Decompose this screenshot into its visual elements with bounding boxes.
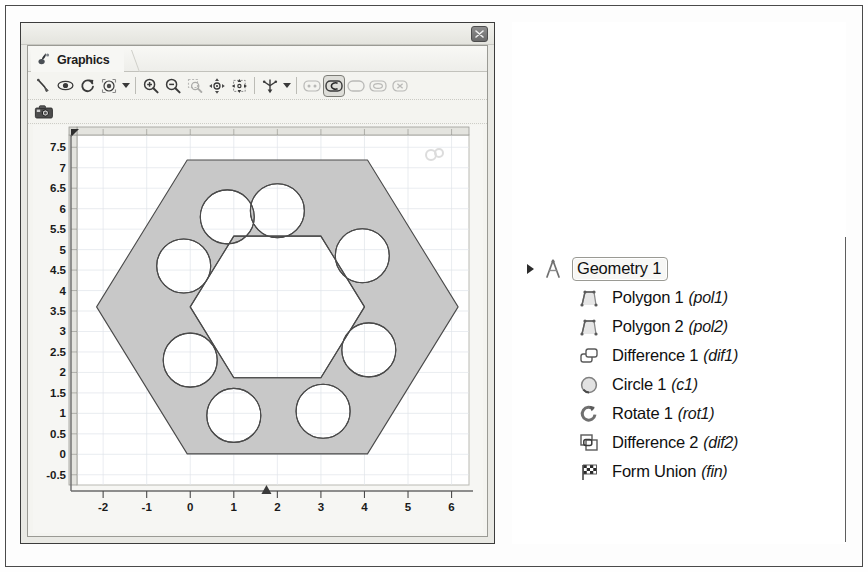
tree-item-circle-1[interactable]: Circle 1 (c1)	[520, 370, 840, 399]
geometry-tree: Geometry 1 Polygon 1 (pol1)	[520, 254, 840, 486]
svg-text:5: 5	[60, 244, 67, 256]
chevron-down-icon[interactable]	[281, 75, 292, 97]
toolbar-separator	[296, 77, 297, 94]
tree-item-difference-2[interactable]: Difference 2 (dif2)	[520, 428, 840, 457]
tree-item-label: Polygon 1	[612, 288, 684, 307]
svg-text:5: 5	[405, 501, 412, 513]
tree-item-label: Rotate 1	[612, 404, 673, 423]
zoom-in-icon[interactable]	[140, 75, 162, 97]
tab-strip: Graphics	[28, 46, 487, 72]
svg-text:6: 6	[60, 203, 66, 215]
tree-item-label: Circle 1	[612, 375, 666, 394]
zoom-out-icon[interactable]	[162, 75, 184, 97]
scene-light-icon[interactable]	[98, 75, 120, 97]
svg-text:0: 0	[187, 501, 193, 513]
clear-selection-icon[interactable]	[389, 75, 411, 97]
difference-icon	[576, 431, 602, 455]
svg-text:3: 3	[318, 501, 324, 513]
tree-item-polygon-2[interactable]: Polygon 2 (pol2)	[520, 312, 840, 341]
tree-item-form-union[interactable]: Form Union (fin)	[520, 457, 840, 486]
tree-item-rotate-1[interactable]: Rotate 1 (rot1)	[520, 399, 840, 428]
svg-text:0: 0	[60, 448, 66, 460]
svg-text:3: 3	[60, 325, 66, 337]
polygon-icon	[576, 315, 602, 339]
tree-item-tag: (pol1)	[689, 289, 728, 307]
svg-text:2: 2	[60, 366, 66, 378]
panel-divider	[845, 237, 847, 542]
svg-text:6: 6	[448, 501, 454, 513]
snapshot-toolbar	[28, 100, 487, 124]
select-boundary-icon[interactable]	[345, 75, 367, 97]
graphics-panel: Graphics	[27, 45, 488, 537]
eye-icon[interactable]	[54, 75, 76, 97]
tree-item-tag: (fin)	[701, 463, 727, 481]
difference-icon	[576, 344, 602, 368]
circle-icon	[576, 373, 602, 397]
tab-graphics[interactable]: Graphics	[31, 48, 124, 72]
svg-text:2.5: 2.5	[50, 346, 67, 358]
svg-text:3.5: 3.5	[50, 305, 67, 317]
tree-item-label-box[interactable]: Difference 2 (dif2)	[608, 432, 744, 454]
zoom-box-icon[interactable]	[184, 75, 206, 97]
tree-node-geometry-1[interactable]: Geometry 1	[520, 254, 840, 283]
tree-node-label-box[interactable]: Geometry 1	[572, 257, 668, 281]
graphics-toolbar	[28, 72, 487, 100]
tree-item-label-box[interactable]: Difference 1 (dif1)	[608, 345, 744, 367]
window-titlebar	[21, 23, 494, 45]
tree-item-tag: (dif2)	[703, 434, 738, 452]
tree-item-label-box[interactable]: Circle 1 (c1)	[608, 374, 704, 396]
zoom-extents-icon[interactable]	[206, 75, 228, 97]
refresh-icon[interactable]	[76, 75, 98, 97]
svg-text:4: 4	[361, 501, 368, 513]
screenshot-root: Graphics	[0, 0, 868, 572]
geometry-plot[interactable]: -0.500.511.522.533.544.555.566.577.5 -2-…	[33, 125, 483, 533]
svg-text:4.5: 4.5	[50, 264, 67, 276]
rotate-icon	[576, 402, 602, 426]
svg-text:5.5: 5.5	[50, 223, 67, 235]
tree-item-label: Difference 1	[612, 346, 698, 365]
tree-item-polygon-1[interactable]: Polygon 1 (pol1)	[520, 283, 840, 312]
model-tree-panel: Geometry 1 Polygon 1 (pol1)	[512, 22, 846, 544]
tree-item-tag: (pol2)	[689, 318, 728, 336]
svg-text:6.5: 6.5	[50, 182, 67, 194]
close-icon[interactable]	[471, 26, 488, 42]
axis-icon[interactable]	[259, 75, 281, 97]
expand-collapse-triangle-icon[interactable]	[520, 254, 540, 283]
toolbar-separator	[135, 77, 136, 94]
tree-item-label: Polygon 2	[612, 317, 684, 336]
svg-text:4: 4	[60, 285, 67, 297]
pointer-icon[interactable]	[32, 75, 54, 97]
graphics-window: Graphics	[20, 22, 495, 544]
svg-text:7: 7	[60, 162, 66, 174]
select-edges-icon[interactable]	[323, 75, 345, 97]
tree-item-difference-1[interactable]: Difference 1 (dif1)	[520, 341, 840, 370]
chevron-down-icon[interactable]	[120, 75, 131, 97]
tree-node-label: Geometry 1	[577, 259, 661, 278]
svg-text:1.5: 1.5	[50, 387, 67, 399]
tree-item-label-box[interactable]: Form Union (fin)	[608, 461, 733, 483]
tree-item-label: Form Union	[612, 462, 696, 481]
tree-item-label-box[interactable]: Polygon 2 (pol2)	[608, 316, 734, 338]
polygon-icon	[576, 286, 602, 310]
select-points-icon[interactable]	[301, 75, 323, 97]
tree-item-label-box[interactable]: Polygon 1 (pol1)	[608, 287, 734, 309]
camera-icon[interactable]	[33, 101, 55, 123]
svg-text:0.5: 0.5	[50, 428, 67, 440]
tree-item-label-box[interactable]: Rotate 1 (rot1)	[608, 403, 720, 425]
svg-text:1: 1	[231, 501, 238, 513]
tree-item-tag: (rot1)	[678, 405, 714, 423]
tree-item-tag: (dif1)	[703, 347, 738, 365]
graphics-icon	[37, 51, 52, 70]
svg-text:2: 2	[274, 501, 280, 513]
svg-text:-2: -2	[98, 501, 108, 513]
svg-text:7.5: 7.5	[50, 141, 67, 153]
svg-text:1: 1	[60, 407, 67, 419]
move-icon[interactable]	[228, 75, 250, 97]
toolbar-separator	[254, 77, 255, 94]
form-union-flag-icon	[576, 460, 602, 484]
svg-text:-0.5: -0.5	[46, 469, 66, 481]
svg-text:-1: -1	[142, 501, 153, 513]
select-domain-icon[interactable]	[367, 75, 389, 97]
tree-item-label: Difference 2	[612, 433, 698, 452]
geometry-compass-icon	[540, 257, 566, 281]
